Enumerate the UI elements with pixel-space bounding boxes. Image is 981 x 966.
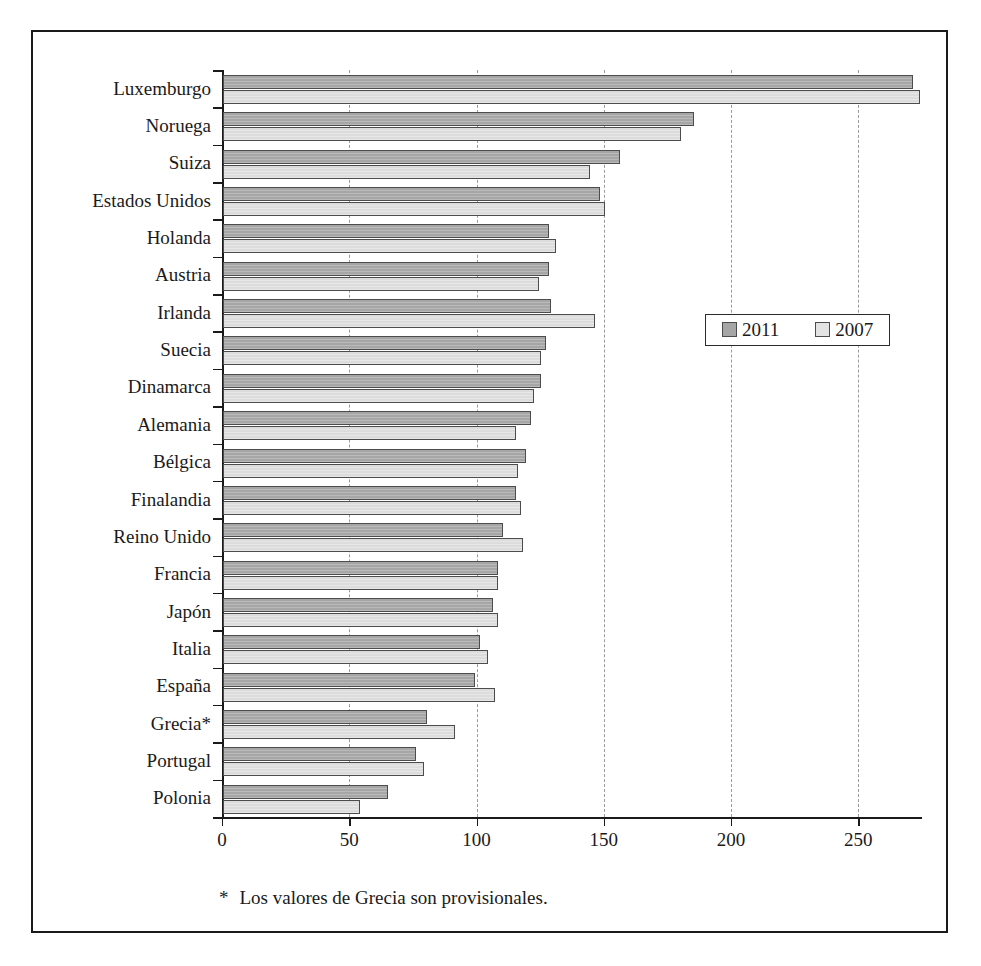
legend-item-2007: 2007 (815, 320, 873, 339)
chart-footnote: *Los valores de Grecia son provisionales… (219, 887, 548, 909)
bar-2011 (223, 561, 498, 575)
category-label: Reino Unido (31, 527, 211, 546)
bar-2007 (223, 90, 920, 104)
bar-2007 (223, 426, 516, 440)
y-axis-tick (213, 369, 222, 371)
legend-label-2011: 2011 (742, 320, 779, 339)
y-axis-tick (213, 481, 222, 483)
x-axis-tick (349, 817, 350, 826)
x-axis-tick (477, 817, 478, 826)
bar-2007 (223, 538, 523, 552)
y-axis-tick (213, 406, 222, 408)
x-axis-tick-label: 200 (701, 830, 761, 850)
gridline (604, 70, 605, 817)
y-axis-tick (213, 444, 222, 446)
category-label: Italia (31, 639, 211, 658)
x-axis-tick (604, 817, 605, 826)
y-axis-tick (213, 556, 222, 558)
footnote-marker: * (219, 887, 229, 908)
gridline (858, 70, 859, 817)
x-axis-tick-label: 50 (319, 830, 379, 850)
category-label: Japón (31, 602, 211, 621)
bar-2007 (223, 165, 590, 179)
y-axis-tick (213, 817, 222, 819)
bar-2007 (223, 650, 488, 664)
y-axis-tick (213, 668, 222, 670)
bar-2011 (223, 635, 480, 649)
bar-2007 (223, 389, 534, 403)
category-label: Finalandia (31, 490, 211, 509)
bar-2011 (223, 710, 427, 724)
bar-2011 (223, 449, 526, 463)
bar-2007 (223, 202, 605, 216)
chart-legend: 2011 2007 (705, 314, 890, 346)
y-axis-line (222, 70, 224, 817)
bar-2007 (223, 800, 360, 814)
x-axis-tick-label: 150 (574, 830, 634, 850)
category-label: Holanda (31, 228, 211, 247)
bar-2007 (223, 762, 424, 776)
bar-2011 (223, 374, 541, 388)
x-axis-tick (858, 817, 859, 826)
y-axis-tick (213, 742, 222, 744)
legend-swatch-2007-icon (815, 322, 830, 337)
category-label: Dinamarca (31, 377, 211, 396)
x-axis-tick-label: 250 (828, 830, 888, 850)
legend-label-2007: 2007 (835, 320, 873, 339)
category-label: Irlanda (31, 303, 211, 322)
bar-2011 (223, 262, 549, 276)
bar-2007 (223, 314, 595, 328)
x-axis-tick-label: 0 (192, 830, 252, 850)
bar-2007 (223, 464, 518, 478)
bar-2011 (223, 150, 620, 164)
y-axis-tick (213, 780, 222, 782)
category-axis-labels: LuxemburgoNoruegaSuizaEstados UnidosHola… (33, 70, 219, 817)
bar-2011 (223, 523, 503, 537)
category-label: Alemania (31, 415, 211, 434)
bar-2007 (223, 501, 521, 515)
x-axis-tick (222, 817, 223, 826)
y-axis-tick (213, 294, 222, 296)
category-label: Suiza (31, 153, 211, 172)
footnote-text: Los valores de Grecia son provisionales. (240, 887, 548, 908)
bar-2011 (223, 75, 913, 89)
chart-figure-frame: LuxemburgoNoruegaSuizaEstados UnidosHola… (31, 30, 948, 933)
plot-area: 050100150200250 (222, 70, 922, 817)
bar-2007 (223, 351, 541, 365)
bar-2011 (223, 187, 600, 201)
bar-2011 (223, 224, 549, 238)
y-axis-tick (213, 219, 222, 221)
bar-2007 (223, 613, 498, 627)
bar-2011 (223, 336, 546, 350)
bar-2011 (223, 411, 531, 425)
category-label: Bélgica (31, 452, 211, 471)
gridline (349, 70, 350, 817)
bar-2011 (223, 747, 416, 761)
category-label: Portugal (31, 751, 211, 770)
x-axis-tick-label: 100 (447, 830, 507, 850)
bar-2011 (223, 299, 551, 313)
category-label: Estados Unidos (31, 191, 211, 210)
x-axis-line (222, 817, 922, 819)
y-axis-tick (213, 518, 222, 520)
bar-2007 (223, 277, 539, 291)
y-axis-tick (213, 331, 222, 333)
category-label: Grecia* (31, 714, 211, 733)
gridline (731, 70, 732, 817)
y-axis-tick (213, 145, 222, 147)
x-axis-tick (731, 817, 732, 826)
bar-2011 (223, 785, 388, 799)
bar-2007 (223, 725, 455, 739)
bar-2011 (223, 598, 493, 612)
y-axis-tick (213, 107, 222, 109)
bar-2007 (223, 239, 556, 253)
bar-2011 (223, 673, 475, 687)
gridline (477, 70, 478, 817)
category-label: Austria (31, 265, 211, 284)
bar-2011 (223, 486, 516, 500)
y-axis-tick (213, 70, 222, 72)
y-axis-tick (213, 630, 222, 632)
bar-2007 (223, 688, 495, 702)
category-label: Suecia (31, 340, 211, 359)
chart-plot-wrapper: LuxemburgoNoruegaSuizaEstados UnidosHola… (33, 32, 950, 935)
